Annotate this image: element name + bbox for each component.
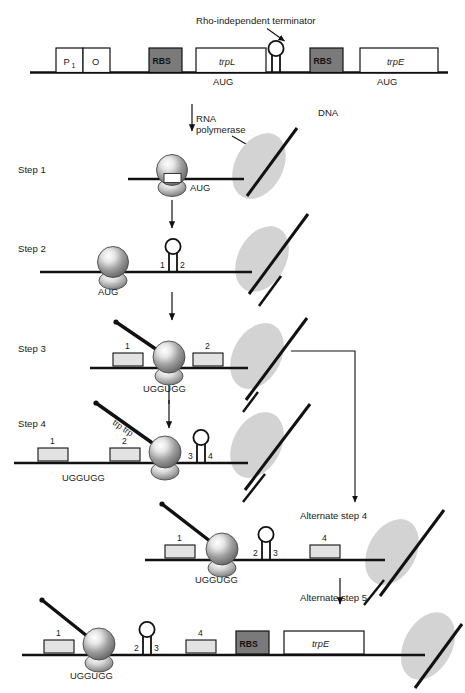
figure-canvas: P 1 O RBS trpL AUG Rho-independent termi… <box>0 0 465 693</box>
hairpin-2-3-alt4 <box>258 527 273 560</box>
segment-box-1-step4 <box>38 448 68 461</box>
rbs-label-alt5: RBS <box>240 639 258 649</box>
promoter-label: P <box>64 56 70 67</box>
ribosome-large-subunit-4 <box>149 436 181 468</box>
alternate-step-5-row: 1 UGGUGG 2 3 4 RBS trpE <box>22 580 465 689</box>
segment-label-1-alt4: 1 <box>177 533 182 543</box>
step-3-row: Step 3 1 2 UGGUGG <box>18 314 307 400</box>
rna-polymerase-annotation-line1: RNA <box>196 113 217 124</box>
alt-step-4-codon: UGGUGG <box>195 574 238 585</box>
ribosome-1 <box>157 155 188 197</box>
terminator-pointer <box>267 29 285 42</box>
ribosome-large-subunit-5 <box>206 533 238 565</box>
operon-map: P 1 O RBS trpL AUG Rho-independent termi… <box>30 15 448 87</box>
rbs-label-2: RBS <box>314 56 332 66</box>
hairpin-right-label-step4: 4 <box>208 451 213 461</box>
alternate-step-5-label: Alternate step 5 <box>300 592 367 603</box>
step-1-codon: AUG <box>190 182 210 193</box>
segment-box-1-alt4 <box>165 545 195 558</box>
operator-label: O <box>92 56 99 67</box>
dna-annotation: DNA <box>318 107 339 118</box>
peptide-tip-6 <box>39 597 44 602</box>
ribosome-4 <box>149 436 181 480</box>
hairpin-right-label-step2: 2 <box>180 260 185 270</box>
peptide-tip-5 <box>159 501 164 506</box>
segment-box-2-step4 <box>110 448 140 461</box>
hairpin-left-label-step4: 3 <box>188 451 193 461</box>
aug-label-1: AUG <box>213 76 233 87</box>
hairpin-left-label-alt4: 2 <box>253 548 258 558</box>
rna-polymerase-annotation-line2: polymerase <box>196 124 246 135</box>
hairpin-right-label-alt5: 3 <box>154 643 159 653</box>
nascent-peptide-6 <box>42 600 92 640</box>
rbs-label-1: RBS <box>153 56 171 66</box>
attenuation-diagram: P 1 O RBS trpL AUG Rho-independent termi… <box>0 0 465 693</box>
segment-box-2-step3 <box>193 353 223 366</box>
step-3-codon: UGGUGG <box>143 383 186 394</box>
step-2-codon: AUG <box>98 286 118 297</box>
step-1-row: Step 1 AUG <box>18 124 297 208</box>
ribosome-large-subunit-3 <box>153 341 185 373</box>
hairpin-left-label-step2: 1 <box>160 260 165 270</box>
trpE-label-alt5: trpE <box>312 638 330 649</box>
segment-label-4-alt4: 4 <box>322 533 327 543</box>
segment-box-4-alt5 <box>186 640 216 653</box>
segment-label-2-step3: 2 <box>205 341 210 351</box>
step-4-label: Step 4 <box>18 418 46 429</box>
nascent-peptide-5 <box>162 504 215 545</box>
aug-label-2: AUG <box>377 76 397 87</box>
segment-label-1-step3: 1 <box>125 341 130 351</box>
alt-step-5-codon: UGGUGG <box>70 670 113 681</box>
ribosome-2 <box>98 247 129 290</box>
ribosome-6 <box>83 628 115 672</box>
hairpin-3-4 <box>193 430 208 463</box>
hairpin-1-2 <box>165 239 180 272</box>
step-4-row: Step 4 1 2 trp trp UGGUGG 3 4 <box>14 392 310 490</box>
hairpin-2-3-alt5 <box>139 622 154 655</box>
trpE-label: trpE <box>387 56 405 67</box>
ribosome-large-subunit-6 <box>83 628 115 660</box>
rna-polymerase-blob-2 <box>224 217 299 301</box>
ribosome-large-subunit-2 <box>98 247 129 278</box>
ribosome-5 <box>206 533 238 577</box>
step-2-label: Step 2 <box>18 243 46 254</box>
peptide-tip-4 <box>93 400 98 405</box>
trpL-label: trpL <box>219 56 235 67</box>
segment-label-1-step4: 1 <box>50 436 55 446</box>
alternate-step-4-label: Alternate step 4 <box>300 510 368 521</box>
branch-to-alternate-step4 <box>291 351 355 502</box>
hairpin-left-label-alt5: 2 <box>134 643 139 653</box>
terminator-hairpin <box>268 41 283 73</box>
segment-box-4-alt4 <box>310 545 340 558</box>
step-3-label: Step 3 <box>18 343 46 354</box>
segment-label-1-alt5: 1 <box>56 628 61 638</box>
segment-box-1-alt5 <box>44 640 74 653</box>
terminator-annotation: Rho-independent terminator <box>196 15 316 26</box>
segment-label-4-alt5: 4 <box>198 628 203 638</box>
hairpin-right-label-alt4: 3 <box>273 548 278 558</box>
alternate-step-4-row: 1 4 UGGUGG 2 3 <box>145 474 444 596</box>
ribosome-3 <box>153 341 185 385</box>
rna-polymerase-blob-6 <box>390 603 465 689</box>
segment-label-2-step4: 2 <box>122 436 127 446</box>
step-1-label: Step 1 <box>18 164 46 175</box>
step-4-codon: UGGUGG <box>62 472 105 483</box>
promoter-subscript: 1 <box>72 62 76 69</box>
step-2-row: Step 2 AUG 1 2 <box>18 214 308 306</box>
peptide-tip-3 <box>113 319 118 324</box>
segment-box-1-step3 <box>113 353 143 366</box>
ribosome-channel-1 <box>164 174 181 183</box>
